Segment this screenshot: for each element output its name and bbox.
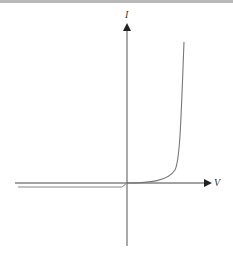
- x-axis-label: V: [214, 177, 220, 188]
- forward-bias-curve: [127, 42, 184, 183]
- reverse-bias-line: [18, 183, 127, 187]
- iv-curve-diagram: [0, 0, 233, 262]
- y-axis-label: I: [125, 9, 128, 20]
